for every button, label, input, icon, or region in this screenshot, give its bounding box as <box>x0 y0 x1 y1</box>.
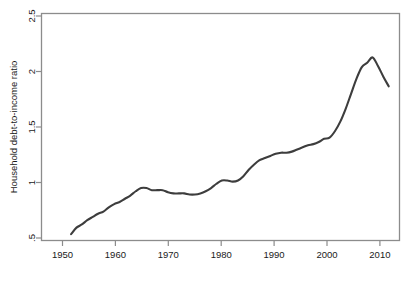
x-tick-label-1970: 1970 <box>158 249 179 260</box>
y-axis-title: Household debt-to-income ratio <box>8 61 19 194</box>
x-tick-label-1950: 1950 <box>52 249 73 260</box>
line-chart: 2.5 2 1.5 1 .5 Household debt-to-income … <box>0 0 412 281</box>
y-tick-label-1.5: 1.5 <box>26 120 37 133</box>
y-tick-label-2.5: 2.5 <box>26 9 37 22</box>
x-tick-label-1990: 1990 <box>264 249 285 260</box>
y-tick-label-2: 2 <box>26 69 37 74</box>
x-tick-labels: 1950 1960 1970 1980 1990 2000 2010 <box>52 249 391 260</box>
plot-frame <box>42 14 400 241</box>
x-tick-label-1980: 1980 <box>211 249 232 260</box>
chart-figure: 2.5 2 1.5 1 .5 Household debt-to-income … <box>0 0 412 281</box>
y-tick-labels: 2.5 2 1.5 1 .5 <box>26 9 37 242</box>
x-tick-label-1960: 1960 <box>105 249 126 260</box>
y-tick-label-1: 1 <box>26 180 37 185</box>
x-tick-label-2010: 2010 <box>369 249 390 260</box>
x-tick-label-2000: 2000 <box>316 249 337 260</box>
y-tick-label-0.5: .5 <box>26 234 37 242</box>
figure-caption-clipped <box>0 271 412 281</box>
x-axis-ticks <box>63 241 380 247</box>
plot-border <box>42 14 400 241</box>
y-axis-ticks <box>36 16 42 238</box>
data-series-line <box>71 57 389 234</box>
